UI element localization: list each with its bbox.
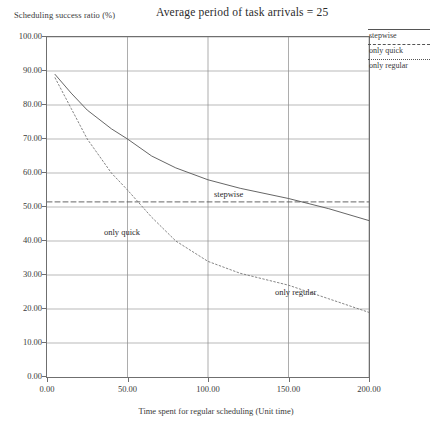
- x-tick-label: 100.00: [196, 384, 219, 394]
- inline-label-only-regular: only regular: [275, 287, 316, 297]
- x-axis-title: Time spent for regular scheduling (Unit …: [0, 406, 432, 416]
- plot-area: stepwise only quick only regular: [46, 36, 370, 378]
- legend-label: only quick: [369, 46, 403, 55]
- series-line-only-regular: [55, 78, 369, 313]
- y-tick-label: 30.00: [23, 269, 42, 279]
- legend-label: only regular: [369, 61, 408, 70]
- x-tick-mark: [369, 378, 370, 382]
- x-tick-mark: [47, 378, 48, 382]
- plot-svg: [47, 37, 369, 377]
- legend-item-only-regular[interactable]: only regular: [368, 58, 432, 73]
- x-tick-label: 150.00: [277, 384, 300, 394]
- y-axis-title: Scheduling success ratio (%): [14, 10, 115, 20]
- y-tick-label: 10.00: [23, 337, 42, 347]
- chart-legend: stepwiseonly quickonly regular: [368, 28, 432, 73]
- y-tick-label: 80.00: [23, 99, 42, 109]
- legend-item-only-quick[interactable]: only quick: [368, 43, 432, 58]
- legend-label: stepwise: [369, 31, 397, 40]
- chart-title: Average period of task arrivals = 25: [156, 6, 329, 18]
- x-tick-label: 50.00: [118, 384, 137, 394]
- x-tick-mark: [289, 378, 290, 382]
- y-axis-tick-labels: 0.0010.0020.0030.0040.0050.0060.0070.008…: [0, 36, 42, 378]
- legend-item-stepwise[interactable]: stepwise: [368, 28, 432, 43]
- y-tick-label: 100.00: [19, 31, 42, 41]
- series-line-stepwise: [55, 74, 369, 220]
- y-tick-label: 60.00: [23, 167, 42, 177]
- y-tick-label: 90.00: [23, 65, 42, 75]
- chart-root: Scheduling success ratio (%) Average per…: [0, 0, 432, 430]
- x-tick-label: 0.00: [40, 384, 55, 394]
- y-tick-label: 50.00: [23, 201, 42, 211]
- x-tick-mark: [128, 378, 129, 382]
- y-tick-label: 0.00: [27, 371, 42, 381]
- x-tick-mark: [208, 378, 209, 382]
- inline-label-stepwise: stepwise: [214, 189, 243, 199]
- x-axis-tick-labels: 0.0050.00100.00150.00200.00: [46, 378, 370, 400]
- y-tick-label: 40.00: [23, 235, 42, 245]
- inline-label-only-quick: only quick: [104, 227, 140, 237]
- x-tick-label: 200.00: [357, 384, 380, 394]
- y-tick-label: 70.00: [23, 133, 42, 143]
- y-tick-label: 20.00: [23, 303, 42, 313]
